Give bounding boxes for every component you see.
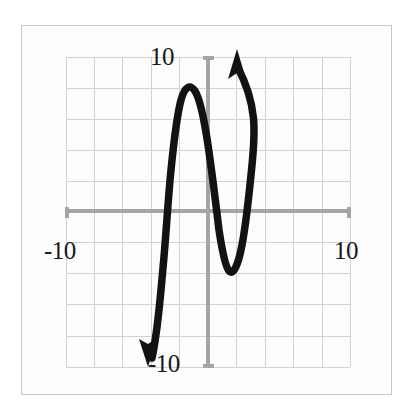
x-axis-max-label: 10	[334, 238, 358, 263]
curve-arrowhead-up	[228, 49, 246, 79]
x-axis-min-label: -10	[44, 238, 76, 263]
coordinate-plot	[0, 0, 408, 417]
graph-page: 10 -10 -10 10	[0, 0, 408, 417]
y-axis-max-label: 10	[150, 44, 174, 69]
y-axis-min-label: -10	[148, 351, 180, 376]
axes	[67, 58, 349, 366]
